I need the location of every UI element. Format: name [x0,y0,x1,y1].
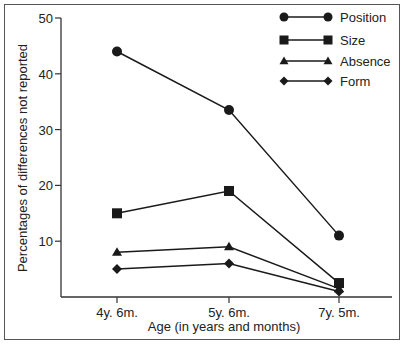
circle-marker-icon [280,13,289,22]
series-group [112,46,344,296]
y-tick-label: 10 [39,234,53,249]
triangle-marker-icon [224,242,234,251]
circle-marker-icon [334,231,344,241]
y-axis-title: Percentages of differences not reported [15,44,30,272]
circle-marker-icon [324,13,333,22]
diamond-marker-icon [324,77,333,86]
square-marker-icon [324,36,333,45]
y-tick-label: 40 [39,67,53,82]
circle-marker-icon [112,46,122,56]
series-position [112,46,344,240]
x-axis-title: Age (in years and months) [148,319,300,334]
diamond-marker-icon [280,77,289,86]
square-marker-icon [112,208,122,218]
series-line [117,191,339,283]
legend: PositionSizeAbsenceForm [280,10,391,89]
legend-label: Form [340,74,370,89]
line-chart: 10203040504y. 6m.5y. 6m.7y. 5m. Position… [0,0,404,348]
x-tick-label: 5y. 6m. [208,305,250,320]
x-tick-label: 4y. 6m. [96,305,138,320]
legend-item-size: Size [280,33,366,48]
y-tick-label: 20 [39,178,53,193]
legend-label: Size [340,33,365,48]
legend-label: Position [340,10,386,25]
series-line [117,51,339,235]
square-marker-icon [224,186,234,196]
legend-label: Absence [340,54,391,69]
axes: 10203040504y. 6m.5y. 6m.7y. 5m. [39,11,392,320]
diamond-marker-icon [112,264,122,274]
x-tick-label: 7y. 5m. [318,305,360,320]
legend-item-absence: Absence [280,54,391,69]
y-tick-label: 50 [39,11,53,26]
square-marker-icon [280,36,289,45]
y-tick-label: 30 [39,123,53,138]
circle-marker-icon [224,105,234,115]
legend-item-form: Form [280,74,371,89]
diamond-marker-icon [224,259,234,269]
legend-item-position: Position [280,10,387,25]
series-line [117,264,339,292]
